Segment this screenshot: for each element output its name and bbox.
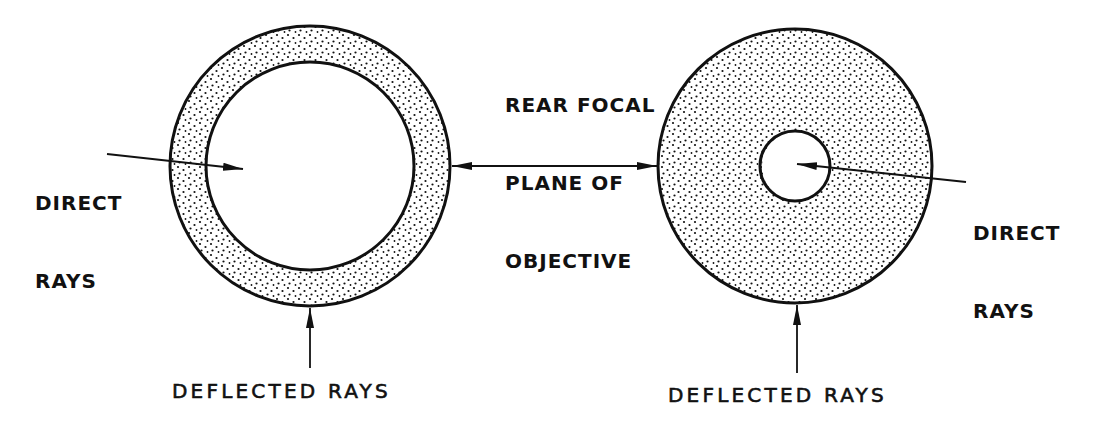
left-direct-label: DIRECT RAYS xyxy=(35,138,122,320)
left-deflected-label: DEFLECTED RAYS xyxy=(172,378,391,404)
focal-plane-label-line1: REAR FOCAL xyxy=(505,92,655,118)
right-direct-label: DIRECT RAYS xyxy=(973,168,1060,350)
left-direct-label-line1: DIRECT xyxy=(35,190,122,216)
right-direct-label-line2: RAYS xyxy=(973,298,1060,324)
right-disk xyxy=(658,29,932,303)
focal-plane-label-line2: PLANE OF xyxy=(505,170,655,196)
left-direct-label-line2: RAYS xyxy=(35,268,122,294)
right-direct-label-line1: DIRECT xyxy=(973,220,1060,246)
right-deflected-label: DEFLECTED RAYS xyxy=(668,382,887,408)
focal-plane-label: REAR FOCAL PLANE OF OBJECTIVE xyxy=(505,40,655,300)
focal-plane-label-line3: OBJECTIVE xyxy=(505,248,655,274)
